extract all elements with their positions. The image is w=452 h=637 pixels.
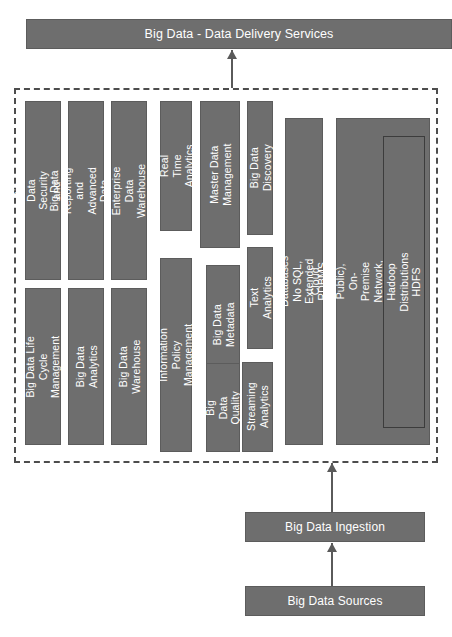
arrow-platform-to-delivery bbox=[226, 50, 238, 88]
box-hadoop-distributions-hdfs: Hadoop Distributions HDFS bbox=[383, 136, 425, 428]
box-label: Information Policy Management bbox=[157, 324, 195, 386]
box-big-data-discovery: Big Data Discovery bbox=[247, 101, 273, 235]
box-cloud-infrastructure: Cloud (Private, Public), On-Premise Netw… bbox=[336, 118, 430, 445]
box-master-data-management: Master Data Management bbox=[200, 101, 240, 248]
box-big-data-sources: Big Data Sources bbox=[245, 586, 425, 616]
box-label: Streaming Analytics bbox=[245, 383, 270, 432]
box-big-data-analytics: Big Data Analytics bbox=[68, 288, 104, 445]
box-label: Real Time Analytics bbox=[157, 145, 195, 188]
banner-label: Big Data - Data Delivery Services bbox=[145, 27, 334, 42]
box-big-data-ingestion: Big Data Ingestion bbox=[245, 512, 425, 542]
box-label: Hadoop Distributions HDFS bbox=[385, 252, 423, 311]
box-label: Master Data Management bbox=[207, 143, 232, 205]
box-label: Enterprise Data Warehouse bbox=[110, 163, 148, 217]
box-label: Big Data Ingestion bbox=[285, 520, 385, 534]
box-label: Big Data Life Cycle Management bbox=[24, 335, 62, 397]
box-label: Big Data Sources bbox=[288, 594, 383, 608]
box-big-data-quality: Big Data Quality bbox=[206, 363, 240, 452]
box-label: Text Analytics bbox=[247, 277, 272, 320]
box-enterprise-data-warehouse: Enterprise Data Warehouse bbox=[111, 101, 147, 280]
arrow-sources-to-ingestion bbox=[326, 543, 338, 587]
box-big-data-reporting-and-advanced-data-visualization: Big Data Reporting and Advanced Data Vis… bbox=[68, 101, 104, 280]
box-text-analytics: Text Analytics bbox=[247, 247, 273, 349]
big-data-delivery-services-banner: Big Data - Data Delivery Services bbox=[26, 19, 452, 49]
box-label: Big Data Warehouse bbox=[116, 339, 141, 393]
box-big-data-warehouse: Big Data Warehouse bbox=[111, 288, 147, 445]
box-information-policy-management: Information Policy Management bbox=[160, 258, 192, 452]
box-label: Big Data Quality bbox=[204, 391, 242, 424]
arrow-ingestion-to-platform bbox=[326, 463, 338, 513]
box-label: Big Data Analytics bbox=[73, 345, 98, 388]
box-big-data-life-cycle-management: Big Data Life Cycle Management bbox=[25, 288, 61, 445]
box-real-time-analytics: Real Time Analytics bbox=[160, 101, 192, 231]
box-streaming-analytics: Streaming Analytics bbox=[242, 362, 273, 452]
box-label: Big Data Discovery bbox=[247, 145, 272, 192]
box-label: Big Data Metadata bbox=[210, 303, 235, 348]
